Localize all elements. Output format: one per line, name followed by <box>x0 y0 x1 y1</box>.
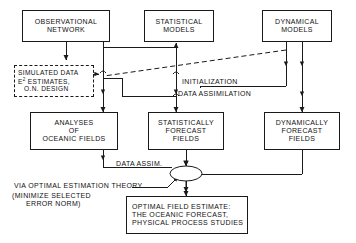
node-statistically-forecast-fields[interactable]: STATISTICALLY FORECAST FIELDS <box>148 112 224 150</box>
node-dynamically-forecast-fields[interactable]: DYNAMICALLY FORECAST FIELDS <box>264 112 340 150</box>
statistically-forecast-line-3: FIELDS <box>173 135 200 143</box>
statistical-models-line-2: MODELS <box>163 26 195 34</box>
dynamically-forecast-line-3: FIELDS <box>289 135 316 143</box>
node-observational-network[interactable]: OBSERVATIONAL NETWORK <box>22 10 110 42</box>
label-data-assimilation: DATA ASSIMILATION <box>178 90 251 98</box>
simulated-data-estimates-text: ESTIMATES, <box>26 78 70 85</box>
statistically-forecast-line-1: STATISTICALLY <box>158 119 214 127</box>
dynamically-forecast-line-2: FORECAST <box>282 127 323 135</box>
statistically-forecast-line-2: FORECAST <box>166 127 207 135</box>
observational-network-line-2: NETWORK <box>47 26 85 34</box>
flowchart-diagram: OBSERVATIONAL NETWORK STATISTICAL MODELS… <box>0 0 356 243</box>
node-statistical-models[interactable]: STATISTICAL MODELS <box>144 10 214 42</box>
simulated-data-line-3: O.N. DESIGN <box>18 85 69 93</box>
merge-junction-ellipse <box>170 166 202 181</box>
label-via-optimal-estimation-theory: VIA OPTIMAL ESTIMATION THEORY <box>14 182 143 190</box>
dynamical-models-line-1: DYNAMICAL <box>275 18 319 26</box>
node-analyses-of-oceanic-fields[interactable]: ANALYSES OF OCEANIC FIELDS <box>30 112 118 150</box>
statistical-models-line-1: STATISTICAL <box>155 18 202 26</box>
node-optimal-field-estimate[interactable]: OPTIMAL FIELD ESTIMATE: THE OCEANIC FORE… <box>126 196 248 234</box>
label-data-assim: DATA ASSIM. <box>116 160 162 168</box>
simulated-data-line-1: SIMULATED DATA <box>18 69 79 77</box>
simulated-data-line-2: E2 ESTIMATES, <box>18 77 70 86</box>
observational-network-line-1: OBSERVATIONAL <box>35 18 98 26</box>
node-dynamical-models[interactable]: DYNAMICAL MODELS <box>262 10 332 42</box>
minimize-line-2: ERROR NORM) <box>12 200 91 208</box>
edge-models-to-simdata <box>104 50 286 76</box>
node-simulated-data[interactable]: SIMULATED DATA E2 ESTIMATES, O.N. DESIGN <box>14 65 94 97</box>
optimal-field-estimate-line-3: PHYSICAL PROCESS STUDIES <box>132 219 243 227</box>
optimal-field-estimate-line-2: THE OCEANIC FORECAST, <box>132 211 228 219</box>
optimal-field-estimate-line-1: OPTIMAL FIELD ESTIMATE: <box>132 203 231 211</box>
analyses-line-1: ANALYSES <box>54 119 93 127</box>
minimize-line-1: (MINIMIZE SELECTED <box>12 192 91 200</box>
dynamically-forecast-line-1: DYNAMICALLY <box>276 119 329 127</box>
analyses-line-3: OCEANIC FIELDS <box>42 135 105 143</box>
dynamical-models-line-2: MODELS <box>281 26 313 34</box>
label-initialization: INITIALIZATION <box>182 78 238 86</box>
label-minimize-error-norm: (MINIMIZE SELECTED ERROR NORM) <box>12 192 91 209</box>
analyses-line-2: OF <box>69 127 79 135</box>
